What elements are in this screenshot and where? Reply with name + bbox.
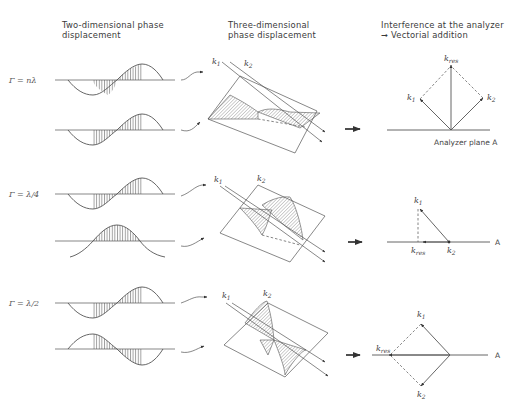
label-k1: k1 [212, 57, 221, 67]
label-k2: k2 [447, 246, 456, 256]
wave-3d-row2: k1 k2 [214, 174, 325, 262]
analyzer-plane-label: A [495, 351, 501, 360]
label-k2: k2 [417, 390, 426, 400]
connector-arrow-icon [181, 72, 203, 80]
diagram-svg: Γ = nλ [0, 0, 531, 404]
vector-addition-row1: kres k1 k2 Analyzer plane A [387, 54, 498, 147]
row-lambda-half: Γ = λ/2 k1 [8, 287, 501, 400]
connector-arrow-icon [181, 238, 204, 246]
connector-arrow-icon [181, 297, 207, 303]
vector-addition-row2: k1 kres k2 A [387, 196, 501, 256]
wave-3d-row1: k1 k2 [208, 57, 325, 153]
gamma-label-lambda-quarter: Γ = λ/4 [8, 190, 39, 199]
analyzer-plane-label: Analyzer plane A [434, 138, 498, 147]
wave-2d-row1-bottom [55, 114, 175, 145]
label-k2: k2 [244, 59, 253, 69]
gamma-label-n-lambda: Γ = nλ [8, 76, 37, 85]
label-k1: k1 [407, 93, 416, 103]
wave-2d-row2-bottom [55, 225, 175, 257]
label-k1: k1 [214, 175, 223, 185]
row-lambda-quarter: Γ = λ/4 k1 k2 [8, 174, 501, 262]
label-kres: kres [444, 54, 458, 64]
label-kres: kres [376, 344, 390, 354]
diagram-canvas: Two-dimensional phase displacement Three… [0, 0, 531, 404]
gamma-label-lambda-half: Γ = λ/2 [8, 299, 39, 308]
label-k1: k1 [414, 196, 423, 206]
label-k1: k1 [222, 291, 231, 301]
wave-3d-row3: k1 k2 [222, 289, 328, 377]
connector-arrow-icon [181, 346, 204, 352]
wave-2d-row1-top [55, 64, 175, 95]
wave-2d-row3-top [55, 287, 175, 318]
analyzer-plane-label: A [495, 238, 501, 247]
vector-addition-row3: k1 kres k2 A [372, 310, 501, 400]
wave-2d-row3-bottom [55, 334, 175, 365]
connector-arrow-icon [181, 122, 200, 131]
label-k1: k1 [417, 310, 426, 320]
label-kres: kres [411, 246, 425, 256]
row-n-lambda: Γ = nλ [8, 54, 498, 153]
label-k2: k2 [487, 93, 496, 103]
connector-arrow-icon [181, 185, 206, 196]
wave-2d-row2-top [55, 178, 175, 209]
label-k2: k2 [263, 289, 272, 299]
label-k2: k2 [257, 174, 266, 184]
